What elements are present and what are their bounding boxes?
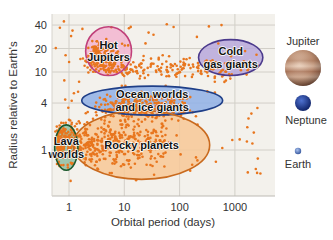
- data-point: [142, 59, 145, 62]
- data-point: [68, 61, 71, 64]
- data-point: [167, 71, 170, 74]
- data-point: [82, 57, 85, 60]
- data-point: [82, 132, 85, 135]
- data-point: [200, 73, 203, 76]
- y-tick-label: 4: [41, 97, 47, 109]
- data-point: [79, 135, 82, 138]
- data-point: [153, 174, 156, 177]
- data-point: [90, 153, 93, 156]
- data-point: [225, 70, 228, 73]
- data-point: [119, 123, 122, 126]
- data-point: [244, 50, 247, 53]
- region-ocean-worlds-and-ice-giants-label: Ocean worlds: [116, 88, 188, 100]
- data-point: [69, 180, 72, 183]
- data-point: [90, 155, 93, 158]
- data-point: [214, 80, 217, 83]
- x-tick-label: 1000: [223, 201, 247, 213]
- data-point: [149, 151, 152, 154]
- data-point: [160, 73, 163, 76]
- data-point: [251, 142, 254, 145]
- region-hot-jupiters-label: Jupiters: [87, 51, 130, 63]
- data-point: [134, 66, 137, 69]
- data-point: [191, 164, 194, 167]
- data-point: [99, 151, 102, 154]
- data-point: [64, 128, 67, 131]
- data-point: [67, 166, 70, 169]
- data-point: [94, 149, 97, 152]
- data-point: [99, 68, 102, 71]
- data-point: [85, 143, 88, 146]
- data-point: [103, 122, 106, 125]
- data-point: [168, 55, 171, 58]
- data-point: [58, 124, 61, 127]
- data-point: [91, 136, 94, 139]
- data-point: [154, 157, 157, 160]
- data-point: [62, 122, 65, 125]
- x-tick-label: 1: [66, 201, 72, 213]
- data-point: [105, 130, 108, 133]
- data-point: [257, 157, 260, 160]
- data-point: [144, 135, 147, 138]
- data-point: [150, 155, 153, 158]
- data-point: [152, 63, 155, 66]
- data-point: [103, 136, 106, 139]
- data-point: [114, 135, 117, 138]
- data-point: [207, 75, 210, 78]
- data-point: [110, 133, 113, 136]
- data-point: [70, 35, 73, 38]
- data-point: [105, 65, 108, 68]
- data-point: [161, 63, 164, 66]
- data-point: [95, 114, 98, 117]
- data-point: [91, 40, 94, 43]
- data-point: [96, 143, 99, 146]
- data-point: [183, 63, 186, 66]
- x-tick-label: 10: [118, 201, 130, 213]
- data-point: [172, 26, 175, 29]
- region-lava-worlds-label: Lava: [54, 135, 80, 147]
- data-point: [64, 54, 67, 57]
- data-point: [81, 28, 84, 31]
- data-point: [95, 101, 98, 104]
- data-point: [128, 27, 131, 30]
- data-point: [109, 129, 112, 132]
- data-point: [157, 58, 160, 61]
- data-point: [189, 109, 192, 112]
- y-tick-label: 20: [35, 43, 47, 55]
- data-point: [151, 116, 154, 119]
- data-point: [74, 125, 77, 128]
- data-point: [163, 165, 166, 168]
- data-point: [147, 31, 150, 34]
- data-point: [56, 125, 59, 128]
- data-point: [253, 131, 256, 134]
- data-point: [122, 115, 125, 118]
- data-point: [89, 69, 92, 72]
- data-point: [98, 106, 101, 109]
- data-point: [124, 121, 127, 124]
- data-point: [231, 139, 234, 142]
- data-point: [175, 134, 178, 137]
- data-point: [79, 140, 82, 143]
- data-point: [150, 63, 153, 66]
- data-point: [77, 91, 80, 94]
- data-point: [109, 71, 112, 74]
- data-point: [93, 140, 96, 143]
- data-point: [144, 42, 147, 45]
- data-point: [189, 67, 192, 70]
- data-point: [91, 158, 94, 161]
- data-point: [103, 157, 106, 160]
- data-point: [87, 146, 90, 149]
- data-point: [67, 107, 70, 110]
- data-point: [155, 69, 158, 72]
- data-point: [86, 151, 89, 154]
- data-point: [155, 160, 158, 163]
- data-point: [65, 122, 68, 125]
- data-point: [157, 153, 160, 156]
- data-point: [164, 134, 167, 137]
- neptune-label: Neptune: [285, 114, 327, 126]
- data-point: [100, 126, 103, 129]
- data-point: [95, 160, 98, 163]
- data-point: [86, 134, 89, 137]
- data-point: [123, 163, 126, 166]
- data-point: [84, 158, 87, 161]
- data-point: [88, 138, 91, 141]
